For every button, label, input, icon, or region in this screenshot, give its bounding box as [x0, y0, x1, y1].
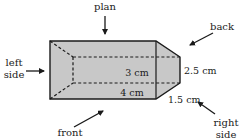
prism-diagram: plan back left side right side front 3 c…	[0, 0, 239, 139]
dimension-depth: 1.5 cm	[168, 94, 200, 105]
right-side-label-line1: right	[214, 117, 239, 128]
back-arrow-icon	[190, 33, 213, 45]
front-label: front	[58, 127, 83, 138]
dimension-height: 2.5 cm	[184, 65, 216, 76]
front-arrow-icon	[74, 111, 103, 127]
right-side-arrow-icon	[198, 102, 215, 114]
dimension-length: 4 cm	[120, 87, 143, 98]
dimension-inner-length: 3 cm	[125, 67, 148, 78]
plan-label: plan	[94, 1, 117, 12]
right-side-label-line2: side	[216, 129, 237, 139]
back-label: back	[210, 21, 235, 32]
prism-outline	[50, 41, 180, 99]
left-side-label-line1: left	[6, 57, 23, 68]
left-side-label-line2: side	[4, 69, 25, 80]
prism-shape	[50, 41, 180, 99]
